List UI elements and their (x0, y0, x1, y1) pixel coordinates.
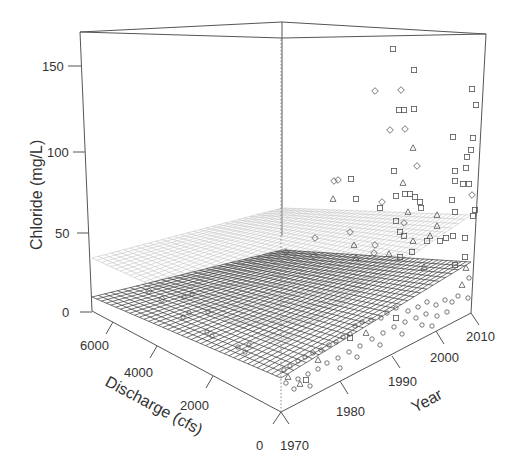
data-point-square (377, 205, 382, 210)
data-point-circle (355, 355, 359, 359)
data-point-circle (443, 298, 447, 302)
data-point-square (460, 181, 465, 186)
data-point-circle (414, 316, 418, 320)
data-point-circle (370, 337, 374, 341)
data-point-circle (403, 320, 407, 324)
y-tick-1980: 1980 (336, 404, 365, 419)
data-point-square (466, 181, 471, 186)
data-point-circle (434, 303, 438, 307)
z-tick-100: 100 (47, 145, 69, 160)
data-point-circle (435, 314, 439, 318)
data-point-circle (392, 325, 396, 329)
data-point-square (411, 106, 416, 111)
z-axis-title: Chloride (mg/L) (28, 140, 45, 250)
y-tick-1970: 1970 (280, 438, 309, 453)
data-point-circle (406, 309, 410, 313)
data-point-diamond (414, 163, 421, 170)
data-point-circle (466, 296, 470, 300)
z-tick-0: 0 (62, 305, 69, 320)
data-point-circle (381, 331, 385, 335)
x-tick-0: 0 (256, 438, 263, 453)
x-tick-6000: 6000 (80, 338, 109, 353)
data-point-diamond (402, 126, 409, 133)
data-point-square (473, 102, 478, 107)
data-point-square (348, 176, 353, 181)
data-point-diamond (398, 87, 405, 94)
data-point-square (464, 154, 469, 159)
data-point-square (418, 205, 423, 210)
data-point-triangle (297, 381, 303, 387)
data-point-square (443, 235, 448, 240)
data-point-square (402, 191, 407, 196)
data-point-square (353, 196, 358, 201)
data-point-square (450, 233, 455, 238)
chart-3d-scatter: 150 100 50 0 Chloride (mg/L) 6000 4000 2… (0, 0, 518, 475)
data-point-triangle (363, 330, 369, 336)
data-point-square (401, 107, 406, 112)
data-point-square (437, 238, 442, 243)
data-point-circle (308, 384, 312, 388)
data-point-square (390, 46, 395, 51)
data-point-square (391, 168, 396, 173)
data-point-diamond (372, 88, 379, 95)
data-point-square (393, 315, 398, 320)
data-point-circle (456, 294, 460, 298)
z-axis (68, 66, 92, 312)
data-point-circle (445, 310, 449, 314)
data-point-circle (347, 350, 351, 354)
data-point-triangle (410, 145, 416, 151)
data-point-circle (450, 300, 454, 304)
z-tick-150: 150 (42, 59, 64, 74)
data-point-diamond (379, 199, 386, 206)
data-point-square (449, 197, 454, 202)
data-point-square (412, 194, 417, 199)
data-point-circle (378, 343, 382, 347)
data-point-circle (306, 372, 310, 376)
data-point-square (469, 86, 474, 91)
data-point-square (411, 67, 416, 72)
data-point-circle (316, 367, 320, 371)
data-point-circle (425, 300, 429, 304)
data-point-circle (424, 312, 428, 316)
data-point-square (470, 213, 475, 218)
y-axis-title: Year (408, 385, 445, 416)
data-point-triangle (459, 282, 465, 288)
data-point-circle (416, 305, 420, 309)
data-point-circle (400, 332, 404, 336)
data-point-square (462, 235, 467, 240)
data-point-square (463, 165, 468, 170)
data-point-circle (467, 276, 471, 280)
data-point-circle (338, 366, 342, 370)
data-point-circle (325, 361, 329, 365)
data-point-circle (292, 387, 296, 391)
data-point-square (303, 377, 308, 382)
scatter-points (146, 46, 479, 391)
data-point-square (470, 135, 475, 140)
data-point-square (396, 107, 401, 112)
y-tick-1990: 1990 (388, 374, 417, 389)
data-point-square (452, 168, 457, 173)
data-point-square (407, 191, 412, 196)
data-point-circle (336, 356, 340, 360)
y-tick-2000: 2000 (430, 350, 459, 365)
data-point-square (417, 199, 422, 204)
data-point-triangle (330, 196, 336, 202)
data-point-square (393, 193, 398, 198)
z-tick-50: 50 (55, 226, 69, 241)
data-point-triangle (315, 357, 321, 363)
data-point-triangle (400, 180, 406, 186)
data-point-circle (284, 381, 288, 385)
data-point-diamond (387, 127, 394, 134)
x-tick-4000: 4000 (124, 365, 153, 380)
plot-box-back (80, 22, 486, 236)
data-point-square (468, 147, 473, 152)
data-point-square (450, 134, 455, 139)
data-point-circle (420, 323, 424, 327)
data-point-square (452, 178, 457, 183)
data-point-circle (296, 377, 300, 381)
y-tick-2010: 2010 (466, 329, 495, 344)
data-point-circle (430, 324, 434, 328)
data-point-circle (358, 344, 362, 348)
data-point-diamond (469, 192, 476, 199)
data-point-square (462, 254, 467, 259)
